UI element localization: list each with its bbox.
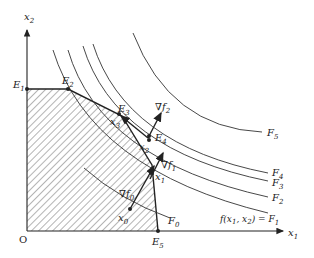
label-e5: E5 bbox=[151, 236, 164, 250]
x2-axis-label: x2 bbox=[24, 11, 35, 25]
contour-f5 bbox=[133, 33, 262, 132]
x1-axis-label: x1 bbox=[288, 227, 298, 241]
label-f1: f(x1, x2) = F1 bbox=[219, 214, 279, 227]
vertex-e5 bbox=[156, 229, 160, 233]
label-e2: E2 bbox=[61, 75, 74, 89]
label-e4: E4 bbox=[154, 132, 167, 146]
label-e1: E1 bbox=[12, 79, 25, 93]
point-x0 bbox=[128, 207, 132, 211]
label-f0: F0 bbox=[167, 215, 180, 229]
point-x2 bbox=[147, 138, 151, 142]
label-f5: F5 bbox=[266, 127, 279, 141]
vertex-e4 bbox=[147, 134, 151, 138]
lp-diagram: x2 x1 O E1 E2 E3 E4 E5 x0 x1 x2 x3 ∇f0 ∇… bbox=[0, 0, 314, 258]
label-f2: F2 bbox=[271, 192, 284, 206]
point-x1 bbox=[149, 171, 153, 175]
label-x1: x1 bbox=[155, 171, 165, 185]
label-grad-f2: ∇f2 bbox=[155, 101, 171, 115]
origin-label: O bbox=[19, 234, 27, 245]
vertex-e1 bbox=[25, 87, 29, 91]
label-grad-f1: ∇f1 bbox=[161, 159, 176, 173]
